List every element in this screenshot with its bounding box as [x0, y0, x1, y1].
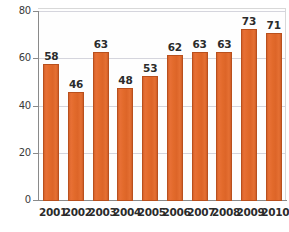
- x-axis-tick-label: 2010: [261, 206, 286, 219]
- y-axis-tick-label: 20: [3, 148, 31, 158]
- bar-value-label: 46: [69, 79, 83, 90]
- x-axis-tick-label: 2004: [113, 206, 138, 219]
- bar-slot: 73: [241, 8, 257, 201]
- bar-slot: 71: [266, 8, 282, 201]
- x-axis-labels: 2001200220032004200520062007200820092010: [39, 206, 286, 224]
- bar-slot: 63: [192, 8, 208, 201]
- y-axis-tick-label: 40: [3, 101, 31, 111]
- bars-layer: 58466348536263637371: [39, 8, 286, 201]
- x-axis-tick-label: 2005: [138, 206, 163, 219]
- bar[interactable]: [142, 76, 158, 201]
- bar-slot: 63: [216, 8, 232, 201]
- bar-value-label: 53: [143, 63, 157, 74]
- bar[interactable]: [43, 64, 59, 201]
- bar[interactable]: [93, 52, 109, 201]
- bar-slot: 62: [167, 8, 183, 201]
- bar[interactable]: [167, 55, 183, 201]
- x-axis-tick-label: 2008: [212, 206, 237, 219]
- bar[interactable]: [266, 33, 282, 201]
- bar-value-label: 48: [118, 75, 132, 86]
- x-axis-tick-label: 2009: [237, 206, 262, 219]
- bar[interactable]: [117, 88, 133, 201]
- bar-slot: 58: [43, 8, 59, 201]
- x-axis-tick-label: 2002: [64, 206, 89, 219]
- bar-value-label: 63: [192, 39, 206, 50]
- bar-value-label: 63: [94, 39, 108, 50]
- bar-slot: 46: [68, 8, 84, 201]
- bar-value-label: 63: [217, 39, 231, 50]
- y-axis-tick-label: 0: [3, 195, 31, 205]
- bar-value-label: 62: [168, 42, 182, 53]
- bar-slot: 53: [142, 8, 158, 201]
- bar-chart: 020406080 58466348536263637371 200120022…: [0, 0, 289, 232]
- bar[interactable]: [216, 52, 232, 201]
- bar-value-label: 71: [267, 20, 281, 31]
- x-axis-tick-label: 2007: [187, 206, 212, 219]
- bar[interactable]: [192, 52, 208, 201]
- bar-value-label: 73: [242, 16, 256, 27]
- bar-slot: 48: [117, 8, 133, 201]
- x-axis-tick-label: 2003: [88, 206, 113, 219]
- x-axis-tick-label: 2006: [163, 206, 188, 219]
- y-axis-tick-label: 80: [3, 6, 31, 16]
- bar[interactable]: [68, 92, 84, 201]
- bar[interactable]: [241, 29, 257, 201]
- bar-value-label: 58: [44, 51, 58, 62]
- x-axis-tick-label: 2001: [39, 206, 64, 219]
- bar-slot: 63: [93, 8, 109, 201]
- y-axis-tick-label: 60: [3, 53, 31, 63]
